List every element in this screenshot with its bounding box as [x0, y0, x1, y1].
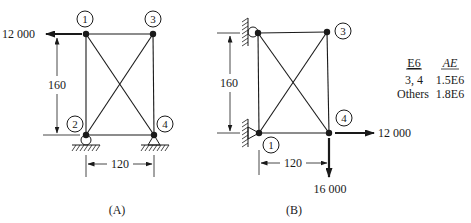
- node-label-1: 1: [263, 137, 279, 153]
- joint-top-left: [255, 30, 261, 36]
- joint-4: [151, 132, 157, 138]
- node-label-3: 3: [335, 23, 351, 39]
- height-label-a: 160: [48, 78, 66, 92]
- joint-1: [256, 130, 262, 136]
- node-label-2: 2: [67, 116, 83, 132]
- truss-members-b: [258, 32, 329, 133]
- svg-text:4: 4: [162, 118, 168, 130]
- joint-3: [150, 31, 156, 37]
- member-3-4: [153, 34, 154, 135]
- member-top: [258, 32, 327, 33]
- member-left: [258, 33, 259, 133]
- node-label-4: 4: [336, 110, 352, 126]
- load-label-horizontal: 12 000: [378, 126, 411, 140]
- width-label-b: 120: [284, 156, 302, 170]
- table-cell: Others: [397, 87, 429, 101]
- load-label-vertical: 16 000: [314, 182, 347, 196]
- caption-b: (B): [286, 203, 302, 217]
- table-cell: 1.8E6: [436, 87, 464, 101]
- svg-text:1: 1: [268, 139, 274, 151]
- truss-members-a: [86, 34, 154, 135]
- caption-a: (A): [109, 203, 126, 217]
- figure-a: 1 3 2 4 12 000 160: [2, 11, 173, 217]
- properties-table: E6 AE 3, 4 1.5E6 Others 1.8E6: [397, 56, 464, 101]
- svg-text:3: 3: [150, 13, 156, 25]
- svg-text:3: 3: [340, 25, 346, 37]
- svg-text:1: 1: [82, 13, 88, 25]
- node-label-1: 1: [77, 11, 93, 27]
- load-label-a: 12 000: [2, 27, 35, 41]
- svg-text:4: 4: [341, 112, 347, 124]
- joint-4: [326, 130, 332, 136]
- svg-text:2: 2: [72, 118, 78, 130]
- member-3-4: [327, 32, 329, 133]
- table-header-element: E6: [407, 56, 420, 70]
- table-header-ae: AE: [442, 56, 458, 70]
- member-diag-2: [259, 32, 327, 133]
- node-label-4: 4: [157, 116, 173, 132]
- figure-b: 3 4 1 12 000 16 000 160: [217, 18, 411, 217]
- table-cell: 1.5E6: [436, 73, 464, 87]
- joint-2: [83, 132, 89, 138]
- width-label-a: 120: [111, 157, 129, 171]
- joint-1: [83, 31, 89, 37]
- joint-3: [324, 29, 330, 35]
- node-label-3: 3: [145, 11, 161, 27]
- table-cell: 3, 4: [405, 73, 423, 87]
- height-label-b: 160: [220, 76, 238, 90]
- truss-figure: 1 3 2 4 12 000 160: [0, 0, 471, 223]
